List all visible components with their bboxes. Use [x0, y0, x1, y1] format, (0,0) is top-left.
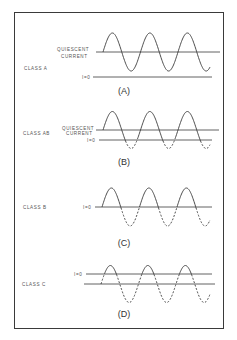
caption-d: (D) — [104, 309, 144, 319]
waveform-c-cutoff-dashed — [101, 274, 105, 284]
waveform-b-cutoff-dashed — [196, 208, 210, 226]
waveform-ab-cutoff-dashed — [201, 141, 211, 149]
class-c-label: CLASS C — [22, 282, 46, 287]
i-zero-label-ab: I=0 — [87, 138, 95, 143]
i-zero-label-a: I=0 — [82, 75, 90, 80]
waveform-b-solid — [140, 188, 159, 208]
caption-c: (C) — [104, 238, 144, 248]
i-zero-label-c: I=0 — [74, 272, 82, 277]
class-a-label: CLASS A — [24, 66, 47, 71]
class-b-label: CLASS B — [23, 205, 47, 210]
class-ab-label: CLASS AB — [23, 131, 50, 136]
waveform-c-cutoff-dashed — [192, 274, 211, 302]
waveform-ab-solid — [175, 112, 201, 141]
quiescent-label-a: QUIESCENT — [57, 47, 89, 52]
waveform-c-solid — [142, 266, 154, 275]
waveform-c-solid — [180, 266, 192, 275]
i-zero-label-b: I=0 — [83, 205, 91, 210]
waveform-c-cutoff-dashed — [117, 274, 143, 303]
caption-b: (B) — [104, 157, 144, 167]
waveform-b-cutoff-dashed — [159, 207, 178, 226]
waveform-b-solid — [102, 188, 121, 208]
waveform-b-solid — [177, 188, 196, 208]
caption-a: (A) — [104, 86, 144, 96]
waveform-ab-solid — [138, 112, 164, 141]
waveform-ab-solid — [103, 112, 126, 141]
waveform-c-cutoff-dashed — [154, 274, 180, 303]
waveform-c-solid — [105, 266, 117, 275]
current-label-a: CURRENT — [61, 54, 88, 59]
waveform-b-cutoff-dashed — [121, 207, 140, 226]
current-label-ab: CURRENT — [66, 131, 93, 136]
waveform-canvas — [0, 0, 237, 340]
